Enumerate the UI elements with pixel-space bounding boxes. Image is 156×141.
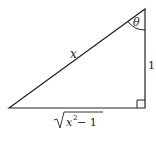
right-triangle <box>9 9 145 108</box>
hypotenuse-label: x <box>70 47 77 61</box>
base-rest: − 1 <box>77 116 97 129</box>
base-variable: x <box>66 116 73 129</box>
vertical-side-label: 1 <box>148 59 155 72</box>
angle-theta-label: θ <box>133 16 140 29</box>
right-angle-marker <box>137 100 145 108</box>
triangle-diagram: θ x 1 x 2 − 1 <box>0 0 156 141</box>
base-label: x 2 − 1 <box>54 112 103 129</box>
